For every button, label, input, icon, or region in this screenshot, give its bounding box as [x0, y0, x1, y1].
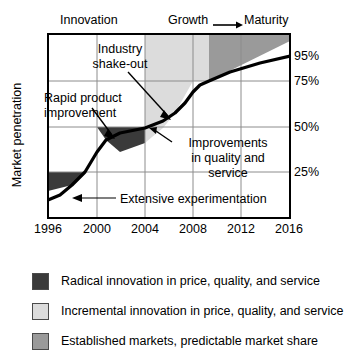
- x-tick-1996: 1996: [25, 222, 71, 236]
- legend-swatch-established: [32, 333, 49, 350]
- annotation-industry-line1: Industry: [74, 42, 166, 57]
- chart-legend: Radical innovation in price, quality, an…: [32, 266, 332, 356]
- y-tick-50: 50%: [294, 120, 319, 134]
- annotation-improve-line1: Improvements: [176, 136, 280, 151]
- legend-item-established: Established markets, predictable market …: [32, 326, 332, 356]
- annotation-improve-line2: in quality and: [176, 151, 280, 166]
- legend-item-incremental: Incremental innovation in price, quality…: [32, 296, 332, 326]
- legend-swatch-incremental: [32, 303, 49, 320]
- annotation-improve-line3: service: [176, 166, 280, 181]
- legend-item-radical: Radical innovation in price, quality, an…: [32, 266, 332, 296]
- x-tick-2016: 2016: [266, 222, 312, 236]
- legend-label-established: Established markets, predictable market …: [61, 334, 318, 348]
- legend-swatch-radical: [32, 273, 49, 290]
- legend-label-incremental: Incremental innovation in price, quality…: [61, 304, 344, 318]
- x-tick-2012: 2012: [218, 222, 264, 236]
- annotation-improvements: Improvements in quality and service: [176, 136, 280, 181]
- x-tick-2008: 2008: [170, 222, 216, 236]
- annotation-rapid-improvement: Rapid product improvement: [44, 91, 144, 121]
- y-tick-95: 95%: [294, 49, 319, 63]
- legend-label-radical: Radical innovation in price, quality, an…: [61, 274, 320, 288]
- y-tick-75: 75%: [294, 74, 319, 88]
- x-tick-2000: 2000: [74, 222, 120, 236]
- annotation-industry-shakeout: Industry shake-out: [74, 42, 166, 72]
- annotation-rapid-line1: Rapid product: [44, 91, 144, 106]
- y-tick-25: 25%: [294, 165, 319, 179]
- x-tick-2004: 2004: [122, 222, 168, 236]
- annotation-industry-line2: shake-out: [74, 57, 166, 72]
- annotation-extensive-experimentation: Extensive experimentation: [120, 192, 290, 207]
- annotation-rapid-line2: improvement: [44, 106, 144, 121]
